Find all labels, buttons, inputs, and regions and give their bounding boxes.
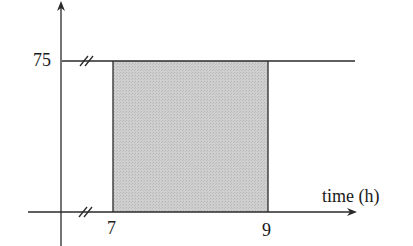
x-tick-label-7: 7 [107,219,116,237]
x-axis-label: time (h) [322,187,379,205]
y-tick-label-75: 75 [33,51,51,69]
shaded-region [113,61,268,212]
chart-canvas [0,0,413,246]
x-tick-label-9: 9 [262,221,271,239]
